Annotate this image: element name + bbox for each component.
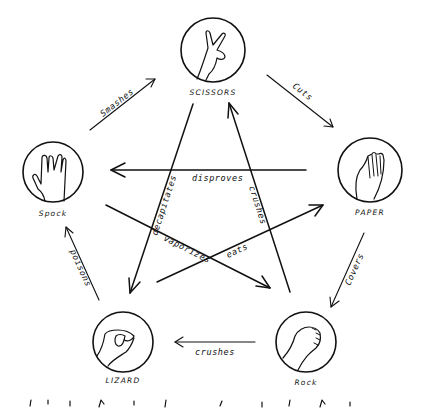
crushes-scissors-label: crushes [247,185,269,226]
rock-label: Rock [294,378,317,387]
node-rock: Rock [276,312,336,387]
paper-hand-icon [356,153,384,200]
edge-crushes-lizard: crushes [175,337,255,357]
edge-disproves: disproves [111,163,306,183]
scissors-hand-icon [197,31,225,80]
arrowhead-icon [65,227,73,237]
scissors-label: SCISSORS [190,88,237,97]
cropped-bottom-text [30,400,350,407]
node-lizard: LIZARD [93,312,153,385]
node-spock: Spock [23,142,83,218]
smashes-label: Smashes [98,86,136,119]
rock-fist-icon [283,327,320,370]
rock-circle [276,312,336,372]
crushes-lizard-label: crushes [195,347,235,357]
covers-label: Covers [343,251,366,286]
scissors-circle [181,18,245,82]
poisons-label: poisons [68,247,94,289]
spock-hand-icon [33,155,66,201]
eats-label: eats [225,241,250,260]
rpsls-diagram: SCISSORS PAPER Spock LIZARD [0,0,427,408]
paper-circle [338,138,402,202]
lizard-hand-icon [97,330,134,366]
spock-label: Spock [39,209,68,218]
spock-circle [23,142,83,202]
edge-smashes: Smashes [90,79,155,130]
node-paper: PAPER [338,138,402,217]
node-scissors: SCISSORS [181,18,245,97]
cuts-label: Cuts [291,81,315,103]
paper-label: PAPER [355,208,385,217]
disproves-label: disproves [192,173,243,183]
edge-crushes-scissors: crushes [228,103,290,292]
edge-poisons: poisons [65,227,99,300]
smashes-arrow-line [90,79,155,130]
edge-cuts: Cuts [267,75,333,127]
lizard-label: LIZARD [106,376,141,385]
edge-covers: Covers [330,233,366,307]
edge-decapitates: decapitates [129,104,193,293]
decapitates-label: decapitates [149,174,178,237]
